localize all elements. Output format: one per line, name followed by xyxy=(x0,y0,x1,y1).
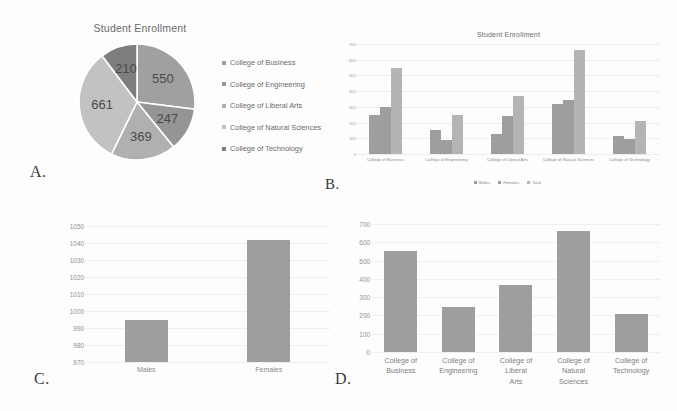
y-axis-tick-label: 100 xyxy=(359,330,370,337)
bar-group xyxy=(538,44,599,154)
panel-a-pie-chart: Student Enrollment 550247369661210 Colle… xyxy=(0,0,340,205)
bar-column xyxy=(430,224,488,352)
bar xyxy=(613,136,624,154)
panel-c-y-axis: 105010401030102010101000990980970 xyxy=(60,220,84,368)
bar-column xyxy=(545,224,603,352)
x-axis-tick-label: College of LiberalArts xyxy=(487,356,545,387)
y-axis-tick-label: 1030 xyxy=(70,257,84,264)
y-axis-tick-label: 300 xyxy=(359,294,370,301)
pie-legend-item: College of Engineering xyxy=(222,74,340,96)
legend-item: Females xyxy=(498,180,519,185)
panel-a-title: Student Enrollment xyxy=(60,22,220,34)
figure-canvas: Student Enrollment 550247369661210 Colle… xyxy=(0,0,677,411)
pie-legend: College of BusinessCollege of Engineerin… xyxy=(222,52,340,160)
pie-slice-label: 369 xyxy=(130,129,152,144)
y-axis-tick-label: 980 xyxy=(73,342,84,349)
bar xyxy=(552,104,563,154)
panel-letter-d: D. xyxy=(335,370,352,388)
bar xyxy=(635,121,646,154)
y-axis-tick-label: 1020 xyxy=(70,274,84,281)
panel-letter-c: C. xyxy=(34,370,50,388)
bar xyxy=(380,107,391,154)
y-axis-tick-label: 400 xyxy=(359,275,370,282)
panel-b-x-axis-labels: College of BusinessCollege of Engineerin… xyxy=(355,157,660,162)
pie-legend-item: College of Natural Sciences xyxy=(222,117,340,139)
panel-letter-b: B. xyxy=(325,176,340,193)
y-axis-tick-label: 990 xyxy=(73,325,84,332)
x-axis-tick-label: College of Liberal Arts xyxy=(477,157,538,162)
bar-column xyxy=(85,226,208,362)
bar xyxy=(513,96,524,154)
panel-c-x-axis-labels: MalesFemales xyxy=(85,366,330,373)
legend-swatch-icon xyxy=(222,104,226,108)
pie-chart-area: 550247369661210 xyxy=(78,42,196,162)
x-axis-tick-label: Males xyxy=(85,366,208,373)
pie-legend-label: College of Natural Sciences xyxy=(230,123,321,132)
panel-b-bar-groups xyxy=(355,44,660,154)
pie-legend-label: College of Business xyxy=(230,58,295,67)
pie-slice-label: 661 xyxy=(91,97,113,112)
panel-d-plot-area xyxy=(372,224,660,352)
x-axis-tick-label: College ofNatural Sciences xyxy=(545,356,603,387)
bar xyxy=(491,134,502,154)
bar xyxy=(369,115,380,154)
panel-b-legend: MalesFemalesTotal xyxy=(355,180,660,185)
panel-b-y-axis: 7006005004003002001000 xyxy=(342,40,356,158)
x-axis-tick-label: College ofEngineering xyxy=(430,356,488,387)
gridline xyxy=(355,154,660,155)
y-axis-tick-label: 700 xyxy=(359,221,370,228)
pie-legend-item: College of Business xyxy=(222,52,340,74)
pie-slice-label: 550 xyxy=(152,71,174,86)
bar xyxy=(442,307,475,352)
pie-legend-item: College of Technology xyxy=(222,138,340,160)
legend-swatch-icon xyxy=(498,181,501,184)
legend-swatch-icon xyxy=(222,147,226,151)
legend-swatch-icon xyxy=(222,125,226,129)
legend-swatch-icon xyxy=(222,61,226,65)
gridline xyxy=(372,352,660,353)
bar xyxy=(557,231,590,352)
bar xyxy=(125,320,168,363)
legend-item: Males xyxy=(474,180,490,185)
legend-swatch-icon xyxy=(527,181,530,184)
bar xyxy=(502,116,513,154)
legend-swatch-icon xyxy=(474,181,477,184)
bar-column xyxy=(487,224,545,352)
x-axis-tick-label: College of Natural Sciences xyxy=(538,157,599,162)
y-axis-tick-label: 200 xyxy=(359,312,370,319)
bar xyxy=(563,100,574,154)
legend-label: Females xyxy=(503,180,519,185)
bar xyxy=(452,115,463,154)
bar xyxy=(624,139,635,154)
bar-column xyxy=(602,224,660,352)
panel-letter-a: A. xyxy=(30,163,47,181)
legend-label: Total xyxy=(532,180,541,185)
x-axis-tick-label: College of Engineering xyxy=(416,157,477,162)
x-axis-tick-label: College of Technology xyxy=(599,157,660,162)
bar xyxy=(384,251,417,352)
y-axis-tick-label: 1010 xyxy=(70,291,84,298)
panel-c-plot-area xyxy=(85,226,330,362)
x-axis-tick-label: College of Business xyxy=(355,157,416,162)
bar-column xyxy=(372,224,430,352)
y-axis-tick-label: 500 xyxy=(359,257,370,264)
y-axis-tick-label: 600 xyxy=(359,239,370,246)
bar-group xyxy=(477,44,538,154)
x-axis-tick-label: College ofTechnology xyxy=(602,356,660,387)
panel-b-title: Student Enrollment xyxy=(340,31,677,38)
pie-legend-item: College of Liberal Arts xyxy=(222,95,340,117)
y-axis-tick-label: 0 xyxy=(366,349,370,356)
panel-b-plot-area xyxy=(355,44,660,154)
pie-slice-label: 210 xyxy=(115,61,137,76)
legend-label: Males xyxy=(479,180,490,185)
legend-swatch-icon xyxy=(222,82,226,86)
y-axis-tick-label: 1000 xyxy=(70,308,84,315)
bar-group xyxy=(416,44,477,154)
pie-legend-label: College of Engineering xyxy=(230,80,305,89)
panel-d-bars xyxy=(372,224,660,352)
bar xyxy=(574,50,585,154)
bar xyxy=(499,285,532,352)
y-axis-tick-label: 1040 xyxy=(70,240,84,247)
bar-group xyxy=(355,44,416,154)
pie-slice-label: 247 xyxy=(156,111,178,126)
